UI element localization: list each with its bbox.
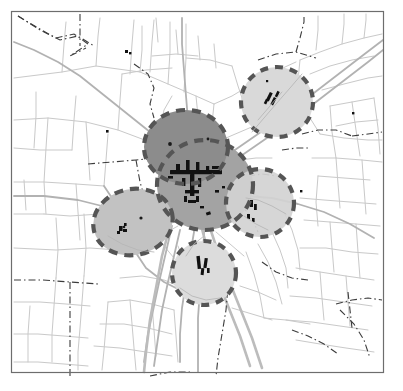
map-canvas (0, 0, 403, 391)
point-feature-a (168, 142, 172, 146)
map-figure (0, 0, 403, 391)
point-feature-c (139, 216, 142, 219)
point-feature-d (123, 226, 126, 229)
point-feature-b (207, 138, 210, 141)
